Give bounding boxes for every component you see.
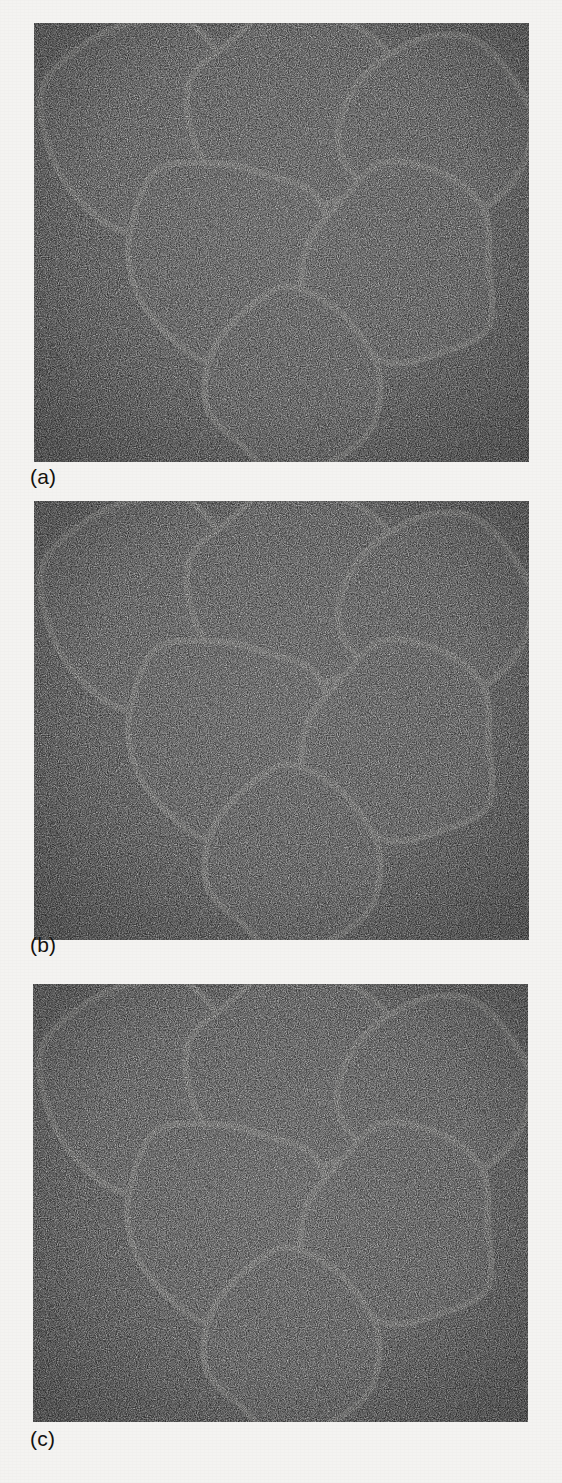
panel-c [33,984,528,1422]
panel-b-label: (b) [30,934,56,955]
panel-c-svg [33,984,528,1422]
panel-a-svg [34,23,529,462]
panel-a-label: (a) [30,466,56,487]
panel-b-svg [34,501,529,940]
figure-container: (a) (b) (c) [0,0,562,1483]
panel-c-label: (c) [30,1428,55,1449]
panel-b-image [34,501,529,940]
panel-c-image [33,984,528,1422]
panel-a [34,23,529,462]
panel-b [34,501,529,940]
panel-a-image [34,23,529,462]
